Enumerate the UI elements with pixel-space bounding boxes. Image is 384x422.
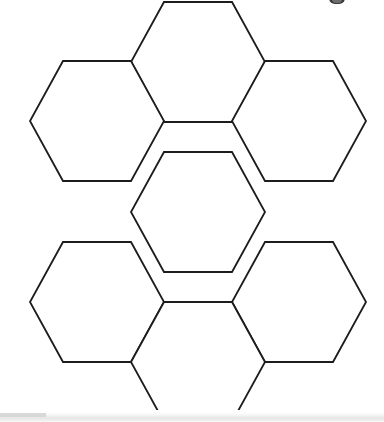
hexagon-group: TopUpper LeftUpper RightCenterLower Left… xyxy=(30,2,366,422)
page-root: TopUpper LeftUpper RightCenterLower Left… xyxy=(0,0,384,422)
bottom-edge-band-accent xyxy=(0,413,46,417)
bottom-edge-band xyxy=(0,410,384,422)
hex-center[interactable]: Center xyxy=(131,152,265,272)
honeycomb-figure: TopUpper LeftUpper RightCenterLower Left… xyxy=(0,0,384,422)
